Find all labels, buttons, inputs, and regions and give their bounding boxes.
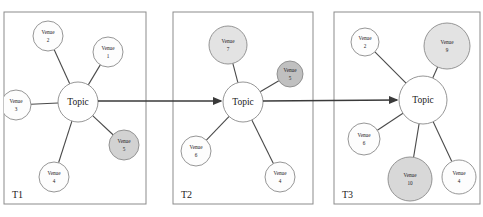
edge-topic-to-t1-v1 — [88, 65, 100, 85]
panel-content-t3: Venue2Venue9Venue6Venue10Venue4Topic — [348, 23, 476, 201]
venue-label-name-t2-v6: Venue — [190, 144, 204, 150]
venue-label-name-t2-v5: Venue — [284, 67, 298, 73]
edge-topic-to-t1-v2 — [54, 50, 70, 84]
topic-venue-diagram: Venue2Venue1Venue3Venue4Venue5TopicT1Ven… — [0, 0, 483, 217]
panel-time-label-t3: T3 — [342, 189, 353, 200]
topic-node-t1[interactable]: Topic — [58, 82, 98, 122]
venue-node-t1-v1[interactable]: Venue1 — [93, 37, 123, 67]
panel-t3: Venue2Venue9Venue6Venue10Venue4TopicT3 — [334, 12, 480, 204]
venue-node-t3-v6[interactable]: Venue6 — [348, 123, 380, 155]
venue-node-t1-v4[interactable]: Venue4 — [39, 162, 69, 192]
panel-t1: Venue2Venue1Venue3Venue4Venue5TopicT1 — [1, 12, 146, 204]
edge-topic-to-t3-v2 — [375, 52, 406, 83]
venue-node-t3-v4[interactable]: Venue4 — [442, 160, 476, 194]
venue-label-number-t2-v4: 4 — [279, 178, 282, 184]
venue-label-name-t2-v4: Venue — [274, 170, 288, 176]
venue-label-name-t2-v7: Venue — [222, 38, 236, 44]
venue-label-name-t1-v3: Venue — [10, 98, 24, 104]
panel-time-label-t1: T1 — [12, 189, 23, 200]
venue-node-t1-v2[interactable]: Venue2 — [33, 21, 63, 51]
edge-topic-to-t1-v5 — [93, 116, 113, 135]
venue-label-number-t1-v1: 1 — [107, 53, 110, 59]
panel-time-label-t2: T2 — [181, 189, 192, 200]
topic-node-t3[interactable]: Topic — [399, 76, 447, 124]
venue-label-name-t3-v2: Venue — [359, 35, 373, 41]
edge-topic-to-t2-v4 — [252, 120, 274, 164]
venue-label-name-t3-v10: Venue — [404, 172, 418, 178]
venue-label-name-t1-v4: Venue — [48, 170, 62, 176]
venue-node-t1-v5[interactable]: Venue5 — [109, 130, 139, 160]
edge-topic-to-t1-v3 — [31, 103, 58, 104]
venue-label-number-t1-v5: 5 — [123, 146, 126, 152]
edge-topic-to-t3-v4 — [433, 122, 452, 162]
panel-content-t1: Venue2Venue1Venue3Venue4Venue5Topic — [1, 21, 139, 192]
venue-label-number-t1-v2: 2 — [47, 37, 50, 43]
venue-node-t3-v10[interactable]: Venue10 — [388, 157, 432, 201]
panel-t2: Venue7Venue5Venue6Venue4TopicT2 — [173, 12, 313, 204]
venue-label-number-t2-v7: 7 — [227, 46, 230, 52]
arrow-t2-t3 — [263, 100, 397, 101]
venue-label-number-t1-v4: 4 — [53, 178, 56, 184]
venue-node-t2-v7[interactable]: Venue7 — [209, 26, 247, 64]
topic-node-t2[interactable]: Topic — [223, 82, 263, 122]
edge-topic-to-t2-v7 — [233, 63, 238, 82]
venue-node-t2-v6[interactable]: Venue6 — [181, 136, 211, 166]
venue-label-name-t3-v4: Venue — [453, 170, 467, 176]
venue-node-t2-v4[interactable]: Venue4 — [265, 162, 295, 192]
venue-node-t2-v5[interactable]: Venue5 — [277, 61, 303, 87]
edge-topic-to-t2-v6 — [206, 116, 229, 140]
topic-label-t3: Topic — [412, 95, 434, 105]
topic-label-t2: Topic — [232, 97, 254, 107]
venue-label-name-t3-v6: Venue — [358, 132, 372, 138]
venue-node-t3-v2[interactable]: Venue2 — [351, 28, 379, 56]
venue-label-name-t1-v5: Venue — [118, 138, 132, 144]
venue-label-number-t2-v6: 6 — [195, 152, 198, 158]
edge-topic-to-t2-v5 — [260, 81, 279, 92]
venue-label-name-t1-v1: Venue — [102, 45, 116, 51]
edge-topic-to-t3-v10 — [414, 124, 420, 158]
diagram-canvas: Venue2Venue1Venue3Venue4Venue5TopicT1Ven… — [0, 0, 483, 217]
topic-label-t1: Topic — [67, 97, 89, 107]
edge-topic-to-t3-v9 — [433, 67, 438, 78]
venue-label-number-t3-v6: 6 — [363, 140, 366, 146]
venue-label-number-t1-v3: 3 — [15, 106, 18, 112]
venue-label-number-t2-v5: 5 — [289, 75, 292, 81]
venue-label-number-t3-v4: 4 — [458, 178, 461, 184]
panel-content-t2: Venue7Venue5Venue6Venue4Topic — [181, 26, 303, 192]
venue-node-t1-v3[interactable]: Venue3 — [1, 90, 31, 120]
venue-label-number-t3-v2: 2 — [364, 43, 367, 49]
venue-label-number-t3-v9: 9 — [446, 47, 449, 53]
venue-node-t3-v9[interactable]: Venue9 — [424, 23, 470, 69]
venue-label-number-t3-v10: 10 — [407, 180, 413, 186]
edge-topic-to-t1-v4 — [59, 121, 72, 163]
venue-label-name-t1-v2: Venue — [42, 29, 56, 35]
venue-label-name-t3-v9: Venue — [441, 39, 455, 45]
edge-topic-to-t3-v6 — [377, 113, 403, 130]
